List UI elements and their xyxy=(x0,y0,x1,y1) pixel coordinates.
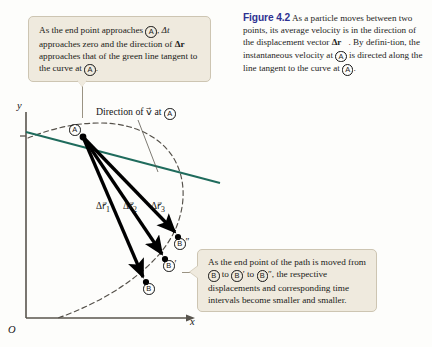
figure-number: Figure 4.2 xyxy=(243,12,290,23)
point-B-double-prime-label: B″ xyxy=(174,236,190,250)
circle-B-double-prime-callout: B xyxy=(257,270,269,282)
circle-B: B xyxy=(143,283,155,295)
callout-box-top: As the end point approaches A, Δt approa… xyxy=(28,16,211,82)
circle-A-callout2: A xyxy=(84,64,96,76)
callout-bottom-pointer xyxy=(190,266,198,278)
circle-B-double-prime: B xyxy=(174,238,186,250)
circle-A-callout1: A xyxy=(145,26,157,38)
displacement-vector-2-label: Δr⃗2 xyxy=(123,200,137,214)
callout-top-pointer xyxy=(77,80,87,87)
tangent-line-green xyxy=(26,132,220,183)
displacement-vector-3 xyxy=(83,137,175,232)
circle-A-caption1: A xyxy=(335,51,347,63)
displacement-vector-1-label: Δr⃗1 xyxy=(96,200,110,214)
point-A-dot xyxy=(80,134,87,141)
figure-4-2: y x O Direction of v⃗ at A Δr⃗1 Δr⃗2 Δr⃗… xyxy=(0,0,432,347)
tangent-direction-label: Direction of v⃗ at A xyxy=(96,106,176,120)
callout-box-bottom: As the end point of the path is moved fr… xyxy=(197,249,377,312)
y-axis-label: y xyxy=(17,100,22,111)
circle-A: A xyxy=(69,124,81,136)
point-A-label: A xyxy=(69,122,81,136)
point-A-circle-inline: A xyxy=(164,108,176,120)
circle-B-prime: B xyxy=(163,260,175,272)
figure-caption: Figure 4.2 As a particle moves between t… xyxy=(243,12,425,76)
point-B-prime-label: B′ xyxy=(163,258,177,272)
circle-B-prime-callout: B xyxy=(231,270,243,282)
x-axis-label: x xyxy=(190,316,195,327)
point-B-label: B xyxy=(143,281,155,295)
displacement-vector-2 xyxy=(83,137,162,254)
displacement-vector-3-label: Δr⃗3 xyxy=(151,200,165,214)
callout-top-leader-line xyxy=(82,82,83,118)
circle-A-caption2: A xyxy=(342,64,354,76)
circle-B-callout: B xyxy=(208,270,220,282)
origin-label: O xyxy=(8,324,16,335)
